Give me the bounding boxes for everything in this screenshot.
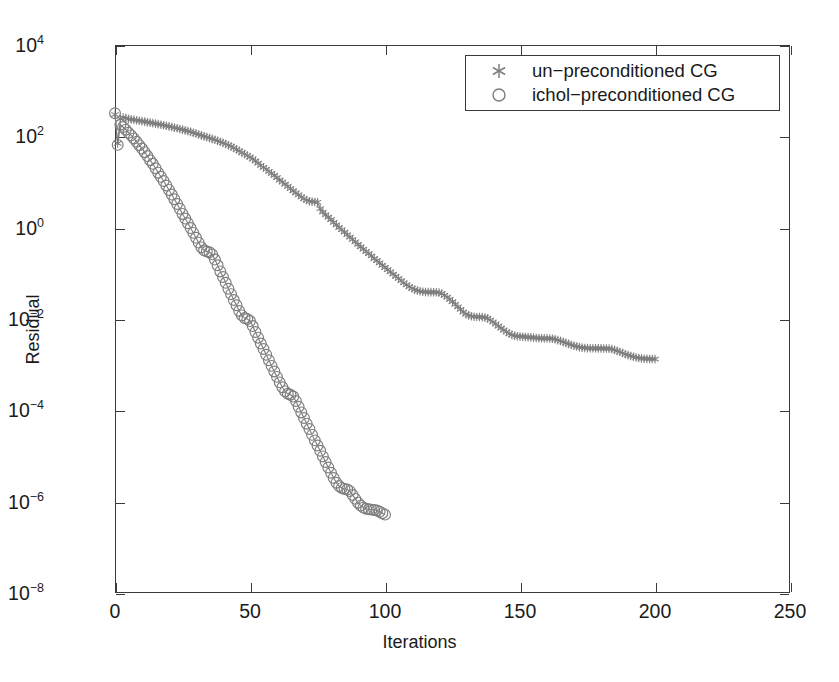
y-tick-label: 100 <box>15 216 44 239</box>
x-tick-mark <box>251 583 252 592</box>
y-tick-mark <box>780 229 789 230</box>
y-tick-mark <box>780 320 789 321</box>
legend-item-unpreconditioned[interactable]: un−preconditioned CG <box>466 59 779 83</box>
plot-axes-box <box>115 45 790 593</box>
x-tick-mark <box>386 46 387 55</box>
y-tick-mark <box>116 320 125 321</box>
x-tick-mark <box>656 583 657 592</box>
figure-semilogy-cg-residual: 10410210010−210−410−610−8 05010015020025… <box>0 0 839 682</box>
y-tick-mark <box>780 411 789 412</box>
y-tick-label: 10−4 <box>8 399 44 422</box>
y-tick-mark <box>780 137 789 138</box>
x-tick-label: 250 <box>774 600 807 623</box>
x-tick-mark <box>521 46 522 55</box>
x-tick-label: 150 <box>504 600 537 623</box>
legend-item-ichol[interactable]: ichol−preconditioned CG <box>466 83 779 107</box>
y-tick-mark <box>116 229 125 230</box>
x-tick-label: 0 <box>110 600 121 623</box>
x-tick-mark <box>251 46 252 55</box>
x-tick-mark <box>791 583 792 592</box>
x-tick-label: 100 <box>369 600 402 623</box>
y-tick-mark <box>116 594 125 595</box>
y-tick-label: 102 <box>15 125 44 148</box>
legend[interactable]: un−preconditioned CG ichol−preconditione… <box>465 55 780 111</box>
y-axis-title: Residual <box>23 270 44 390</box>
x-tick-label: 200 <box>639 600 672 623</box>
legend-label-unpreconditioned: un−preconditioned CG <box>532 60 718 82</box>
y-tick-mark <box>116 503 125 504</box>
x-tick-mark <box>116 583 117 592</box>
x-tick-mark <box>521 583 522 592</box>
x-tick-mark <box>386 583 387 592</box>
legend-label-ichol: ichol−preconditioned CG <box>532 84 735 106</box>
x-tick-mark <box>116 46 117 55</box>
y-tick-mark <box>116 46 125 47</box>
y-tick-mark <box>780 594 789 595</box>
y-tick-mark <box>780 46 789 47</box>
x-tick-label: 50 <box>239 600 261 623</box>
y-tick-mark <box>116 137 125 138</box>
x-axis-title: Iterations <box>0 632 839 653</box>
y-tick-label: 10−6 <box>8 490 44 513</box>
y-tick-label: 10−8 <box>8 582 44 605</box>
asterisk-marker-icon <box>466 61 532 81</box>
circle-marker-icon <box>466 85 532 105</box>
y-tick-mark <box>116 411 125 412</box>
y-tick-mark <box>780 503 789 504</box>
x-tick-mark <box>656 46 657 55</box>
y-tick-label: 104 <box>15 34 44 57</box>
x-tick-mark <box>791 46 792 55</box>
